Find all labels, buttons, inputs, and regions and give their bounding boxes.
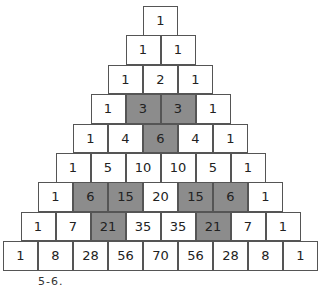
triangle-cell: 2 <box>143 65 178 95</box>
triangle-cell: 70 <box>143 241 178 271</box>
triangle-cell: 1 <box>21 212 56 242</box>
highlighted-cell: 6 <box>213 182 248 212</box>
triangle-cell: 1 <box>38 182 73 212</box>
triangle-cell: 56 <box>178 241 213 271</box>
triangle-cell: 1 <box>283 241 318 271</box>
triangle-cell: 7 <box>56 212 91 242</box>
triangle-cell: 28 <box>73 241 108 271</box>
triangle-cell: 1 <box>91 94 126 124</box>
triangle-cell: 35 <box>161 212 196 242</box>
triangle-cell: 1 <box>213 124 248 154</box>
triangle-cell: 1 <box>3 241 38 271</box>
triangle-cell: 5 <box>196 153 231 183</box>
triangle-cell: 28 <box>213 241 248 271</box>
highlighted-cell: 21 <box>196 212 231 242</box>
figure-caption: 5-6. <box>38 275 63 288</box>
highlighted-cell: 3 <box>126 94 161 124</box>
triangle-cell: 10 <box>126 153 161 183</box>
triangle-cell: 35 <box>126 212 161 242</box>
triangle-cell: 1 <box>126 35 161 65</box>
highlighted-cell: 6 <box>143 124 178 154</box>
triangle-cell: 20 <box>143 182 178 212</box>
triangle-cell: 8 <box>38 241 73 271</box>
triangle-cell: 1 <box>178 65 213 95</box>
triangle-cell: 8 <box>248 241 283 271</box>
highlighted-cell: 21 <box>91 212 126 242</box>
triangle-cell: 4 <box>178 124 213 154</box>
triangle-cell: 1 <box>108 65 143 95</box>
highlighted-cell: 15 <box>108 182 143 212</box>
highlighted-cell: 3 <box>161 94 196 124</box>
highlighted-cell: 15 <box>178 182 213 212</box>
triangle-cell: 4 <box>108 124 143 154</box>
triangle-cell: 1 <box>248 182 283 212</box>
triangle-cell: 1 <box>56 153 91 183</box>
triangle-cell: 7 <box>231 212 266 242</box>
triangle-cell: 1 <box>266 212 301 242</box>
pascal-triangle: 1111211331146411510105116152015611721353… <box>0 0 318 289</box>
triangle-cell: 1 <box>161 35 196 65</box>
triangle-cell: 1 <box>196 94 231 124</box>
triangle-cell: 10 <box>161 153 196 183</box>
highlighted-cell: 6 <box>73 182 108 212</box>
triangle-cell: 1 <box>143 6 178 36</box>
triangle-cell: 1 <box>231 153 266 183</box>
triangle-cell: 56 <box>108 241 143 271</box>
triangle-cell: 5 <box>91 153 126 183</box>
triangle-cell: 1 <box>73 124 108 154</box>
